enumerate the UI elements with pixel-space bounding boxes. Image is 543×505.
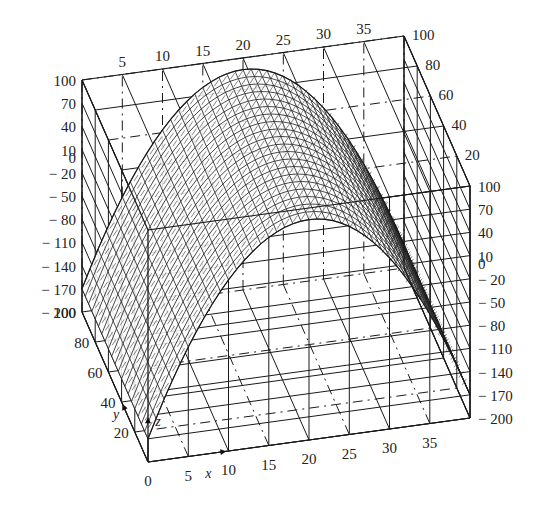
z-left-tick-label: 100	[54, 73, 77, 89]
y-axis-label: y	[111, 407, 120, 422]
z-right-tick-label: 100	[478, 179, 501, 195]
z-left-tick-label: 0	[69, 150, 77, 166]
right-wall-grid-line	[404, 222, 470, 372]
z-right-tick-label: − 200	[478, 411, 513, 427]
z-right-tick-label: 70	[478, 202, 493, 218]
x-top-tick-label: 10	[155, 48, 170, 64]
x-bottom-tick-label: 25	[342, 446, 357, 462]
box-edge	[404, 268, 470, 418]
x-top-tick-label: 20	[236, 37, 251, 53]
x-bottom-tick-label: 10	[221, 462, 236, 478]
x-bottom-tick-label: 0	[144, 473, 152, 489]
z-right-tick-label: 40	[478, 225, 493, 241]
x-bottom-tick-label: 35	[422, 435, 437, 451]
z-left-tick-label: − 20	[49, 166, 76, 182]
z-right-tick-label: − 20	[478, 272, 505, 288]
z-right-tick-label: − 140	[478, 365, 513, 381]
x-bottom-tick-label: 5	[185, 468, 193, 484]
right-wall-grid-line	[404, 59, 470, 209]
x-top-tick-label: 5	[119, 54, 127, 70]
box-edge	[82, 80, 148, 230]
x-bottom-tick-label: 30	[382, 440, 397, 456]
z-axis-label: z	[154, 414, 161, 429]
top-grid-line	[364, 42, 430, 192]
y-right-tick-label: 20	[465, 147, 480, 163]
x-top-tick-label: 35	[356, 21, 371, 37]
right-wall-grid-line	[404, 129, 470, 279]
z-left-tick-label: − 140	[41, 259, 76, 275]
y-right-tick-label: 60	[438, 87, 453, 103]
z-right-tick-label: − 80	[478, 318, 505, 334]
z-left-tick-label: − 170	[41, 282, 76, 298]
z-left-tick-label: − 50	[49, 189, 76, 205]
floor-grid-line	[203, 296, 269, 446]
x-top-tick-label: 25	[276, 32, 291, 48]
y-left-tick-label: 20	[114, 425, 129, 441]
z-right-tick-label: − 170	[478, 388, 513, 404]
z-right-tick-label: − 110	[478, 341, 512, 357]
z-right-tick-label: 0	[478, 256, 486, 272]
z-left-tick-label: 70	[61, 96, 76, 112]
floor-grid-line	[243, 290, 309, 440]
x-bottom-tick-label: 15	[261, 457, 276, 473]
x-axis-arrow-icon	[220, 449, 226, 455]
y-right-tick-label: 100	[412, 27, 435, 43]
right-wall-grid-line	[404, 175, 470, 325]
surface-plot-3d: 5101520253035051015202530351008060402010…	[0, 0, 543, 505]
x-axis-label: x	[204, 466, 212, 481]
floor-grid-line	[324, 279, 390, 429]
x-top-tick-label: 30	[316, 26, 331, 42]
floor-grid-line	[283, 285, 349, 435]
z-right-tick-label: − 50	[478, 295, 505, 311]
z-left-tick-label: − 80	[49, 212, 76, 228]
right-wall-grid-line	[404, 82, 470, 232]
z-left-tick-label: − 200	[41, 305, 76, 321]
x-bottom-tick-label: 20	[302, 451, 317, 467]
z-left-tick-label: 40	[61, 119, 76, 135]
x-top-tick-label: 15	[195, 43, 210, 59]
y-right-tick-label: 80	[425, 57, 440, 73]
y-right-tick-label: 40	[452, 117, 467, 133]
y-left-tick-label: 80	[74, 335, 89, 351]
y-left-tick-label: 60	[87, 365, 102, 381]
z-left-tick-label: − 110	[42, 235, 76, 251]
floor-grid-line	[135, 388, 457, 432]
